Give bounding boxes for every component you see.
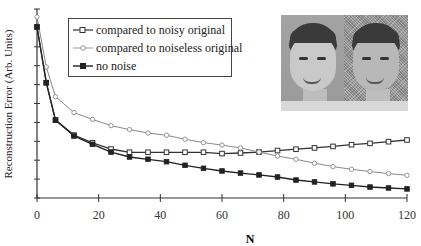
data-point: [35, 25, 40, 30]
data-point: [331, 164, 335, 168]
filled-square-marker-icon: [73, 62, 93, 70]
data-point: [90, 117, 94, 121]
data-point: [368, 185, 373, 190]
data-point: [164, 150, 169, 155]
data-point: [44, 65, 48, 69]
portrait-noisy: [344, 15, 408, 111]
data-point: [127, 155, 132, 160]
open-circle-marker-icon: [73, 44, 93, 52]
legend-label: compared to noisy original: [96, 23, 225, 38]
legend-item-no-noise: no noise: [73, 57, 136, 75]
data-point: [220, 169, 225, 174]
data-point: [146, 131, 150, 135]
data-point: [294, 178, 299, 183]
data-point: [183, 137, 187, 141]
data-point: [257, 173, 262, 178]
legend: compared to noisy original compared to n…: [68, 18, 232, 77]
legend-label: no noise: [96, 59, 136, 74]
data-point: [294, 147, 299, 152]
x-tick-label: 120: [398, 208, 416, 222]
data-point: [220, 151, 225, 156]
x-tick-label: 60: [216, 208, 228, 222]
data-point: [368, 169, 372, 173]
data-point: [405, 138, 410, 143]
data-point: [257, 150, 261, 154]
data-point: [368, 141, 373, 146]
data-point: [146, 157, 151, 162]
x-tick-label: 0: [34, 208, 40, 222]
data-point: [349, 142, 354, 147]
data-point: [53, 118, 58, 123]
x-tick-labels: 020406080100120: [34, 208, 416, 222]
data-point: [312, 180, 317, 185]
data-point: [201, 140, 205, 144]
data-point: [164, 133, 168, 137]
data-point: [312, 161, 316, 165]
data-point: [183, 150, 188, 155]
inset-portrait-images: [281, 15, 408, 111]
x-tick-label: 80: [278, 208, 290, 222]
data-point: [331, 144, 336, 149]
data-point: [349, 167, 353, 171]
data-point: [386, 186, 391, 191]
legend-item-noiseless: compared to noiseless original: [73, 39, 242, 57]
data-point: [35, 15, 39, 19]
data-point: [238, 151, 243, 156]
x-tick-label: 100: [336, 208, 354, 222]
data-point: [72, 110, 76, 114]
x-tick-label: 40: [154, 208, 166, 222]
data-point: [405, 187, 410, 192]
y-axis-label: Reconstruction Error (Arb. Units): [2, 29, 14, 178]
data-point: [201, 150, 206, 155]
data-point: [275, 148, 280, 153]
data-point: [238, 146, 242, 150]
data-point: [238, 171, 243, 176]
data-point: [109, 123, 113, 127]
data-point: [127, 127, 131, 131]
data-point: [164, 159, 169, 164]
data-point: [72, 134, 77, 139]
data-point: [331, 182, 336, 187]
data-point: [90, 142, 95, 147]
data-point: [386, 139, 391, 144]
data-point: [146, 150, 151, 155]
data-point: [275, 175, 280, 180]
data-point: [109, 150, 114, 155]
x-axis-label: N: [246, 232, 255, 246]
data-point: [53, 94, 57, 98]
data-point: [183, 163, 188, 168]
legend-item-noisy: compared to noisy original: [73, 21, 225, 39]
data-point: [44, 80, 49, 85]
data-point: [201, 166, 206, 171]
data-point: [294, 157, 298, 161]
portrait-noiseless: [281, 15, 345, 111]
data-point: [275, 154, 279, 158]
data-point: [220, 143, 224, 147]
data-point: [386, 171, 390, 175]
legend-label: compared to noiseless original: [96, 41, 242, 56]
data-point: [127, 150, 132, 155]
x-tick-label: 20: [93, 208, 105, 222]
data-point: [312, 146, 317, 151]
data-point: [405, 173, 409, 177]
data-point: [349, 183, 354, 188]
open-square-marker-icon: [73, 26, 93, 34]
